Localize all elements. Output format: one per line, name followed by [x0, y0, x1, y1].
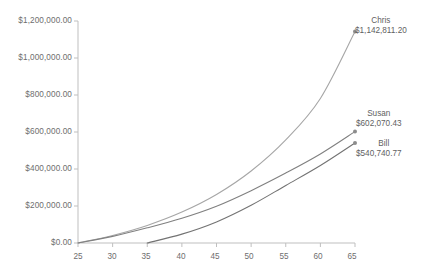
series-line-bill	[147, 143, 355, 243]
x-axis-ticks	[78, 243, 355, 247]
series-annotation-bill: Bill $540,740.77	[356, 139, 402, 160]
axis-lines	[78, 21, 355, 243]
series-line-chris	[78, 32, 355, 243]
y-axis-ticks	[74, 21, 78, 243]
chart-plot-area	[0, 0, 429, 275]
series-value-chris: $1,142,811.20	[355, 26, 407, 36]
series-annotation-susan: Susan $602,070.43	[356, 109, 402, 130]
chart-container: $1,200,000.00 $1,000,000.00 $800,000.00 …	[0, 0, 429, 275]
series-lines	[78, 32, 355, 243]
series-name-chris: Chris	[355, 16, 407, 26]
series-value-bill: $540,740.77	[356, 149, 402, 159]
series-value-susan: $602,070.43	[356, 119, 402, 129]
series-name-bill: Bill	[356, 139, 402, 149]
series-end-marker-susan	[353, 130, 357, 134]
series-annotation-chris: Chris $1,142,811.20	[355, 16, 407, 37]
series-name-susan: Susan	[356, 109, 402, 119]
series-line-susan	[78, 132, 355, 243]
